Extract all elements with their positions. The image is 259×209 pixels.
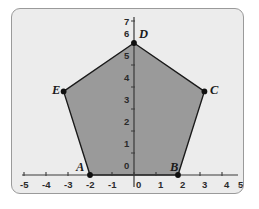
x-tick-label--5: -5 xyxy=(20,180,28,190)
figure-card: -5 -4 -3 -2 -1 0 1 2 3 4 5 0 1 2 3 4 5 6… xyxy=(11,8,244,194)
y-tick-label-6: 6 xyxy=(124,29,129,39)
vertex-label-E: E xyxy=(52,84,60,97)
vertex-dot-D xyxy=(131,40,137,46)
x-tick-label-0: 0 xyxy=(136,180,141,190)
y-tick-label-3: 3 xyxy=(124,95,129,105)
x-tick-label--1: -1 xyxy=(108,180,116,190)
y-tick-label-5: 5 xyxy=(124,51,129,61)
x-tick-label-2: 2 xyxy=(180,180,185,190)
vertex-dot-A xyxy=(87,172,93,178)
x-tick-label-4: 4 xyxy=(224,180,229,190)
x-tick-label-1: 1 xyxy=(158,180,163,190)
y-tick-label-1: 1 xyxy=(124,139,129,149)
vertex-label-A: A xyxy=(76,161,84,174)
y-tick-label-4: 4 xyxy=(124,73,129,83)
y-tick-label-2: 2 xyxy=(124,117,129,127)
vertex-dot-C xyxy=(202,89,208,95)
x-tick-label--3: -3 xyxy=(64,180,72,190)
vertex-label-D: D xyxy=(139,28,148,41)
x-tick-label-3: 3 xyxy=(202,180,207,190)
y-tick-label-0: 0 xyxy=(124,161,129,171)
x-tick-label-5: 5 xyxy=(238,180,243,190)
vertex-label-B: B xyxy=(170,161,178,174)
x-tick-label--2: -2 xyxy=(86,180,94,190)
x-tick-label--4: -4 xyxy=(42,180,50,190)
vertex-label-C: C xyxy=(210,84,218,97)
y-tick-label-7: 7 xyxy=(124,17,129,27)
vertex-dot-E xyxy=(61,89,67,95)
